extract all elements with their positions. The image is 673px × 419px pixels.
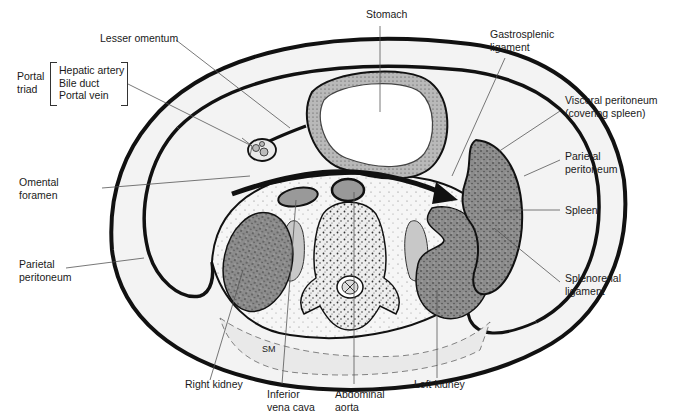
label-ivc-line2: vena cava — [267, 401, 315, 414]
label-parietal-right-line2: peritoneum — [565, 163, 618, 176]
label-parietal-right-line1: Parietal — [565, 150, 618, 163]
label-gastrosplenic-ligament: Gastrosplenic ligament — [490, 28, 554, 53]
label-parietal-peritoneum-left: Parietal peritoneum — [19, 258, 72, 283]
label-abdominal-aorta: Abdominal aorta — [335, 388, 385, 413]
label-aorta-line1: Abdominal — [335, 388, 385, 401]
label-right-kidney: Right kidney — [185, 378, 243, 391]
label-splenorenal-line2: ligament — [565, 285, 621, 298]
label-aorta-line2: aorta — [335, 401, 385, 414]
label-visceral-peritoneum: Visceral peritoneum (covering spleen) — [565, 94, 658, 119]
label-hepatic-artery: Hepatic artery — [59, 64, 124, 77]
label-parietal-peritoneum-right: Parietal peritoneum — [565, 150, 618, 175]
label-parietal-left-line2: peritoneum — [19, 271, 72, 284]
label-omental-foramen: Omental foramen — [19, 176, 59, 201]
label-left-kidney: Left kidney — [414, 378, 465, 391]
label-omental-line2: foramen — [19, 189, 59, 202]
label-stomach: Stomach — [366, 8, 407, 21]
label-bile-duct: Bile duct — [59, 77, 124, 90]
label-omental-line1: Omental — [19, 176, 59, 189]
label-spleen: Spleen — [565, 204, 598, 217]
label-portal-triad: Portal triad — [17, 70, 44, 95]
label-gastrosplenic-line2: ligament — [490, 41, 554, 54]
label-splenorenal-line1: Splenorenal — [565, 272, 621, 285]
label-visceral-line2: (covering spleen) — [565, 107, 658, 120]
label-lesser-omentum: Lesser omentum — [100, 32, 178, 45]
label-portal-vein: Portal vein — [59, 89, 124, 102]
label-gastrosplenic-line1: Gastrosplenic — [490, 28, 554, 41]
label-inferior-vena-cava: Inferior vena cava — [267, 388, 315, 413]
bracket-left — [50, 62, 57, 106]
label-splenorenal-ligament: Splenorenal ligament — [565, 272, 621, 297]
label-portal-triad-line2: triad — [17, 83, 44, 96]
label-ivc-line1: Inferior — [267, 388, 315, 401]
artist-initials: SM — [262, 344, 276, 354]
label-visceral-line1: Visceral peritoneum — [565, 94, 658, 107]
label-portal-triad-items: Hepatic artery Bile duct Portal vein — [59, 64, 124, 102]
aorta-shape — [332, 179, 364, 201]
label-portal-triad-line1: Portal — [17, 70, 44, 83]
label-parietal-left-line1: Parietal — [19, 258, 72, 271]
